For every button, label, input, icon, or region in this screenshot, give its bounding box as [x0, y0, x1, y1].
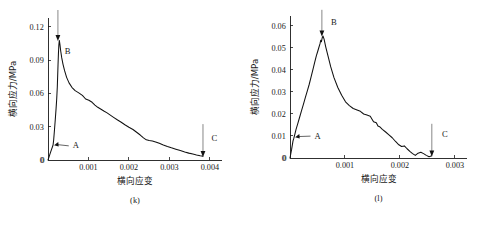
annotation-arrowhead — [429, 151, 434, 157]
plot-area-k: 00.0010.0020.0030.00400.030.060.090.12AB… — [7, 10, 222, 205]
x-axis-title: 横向应变 — [117, 175, 153, 186]
figure-root: 00.0010.0020.0030.00400.030.060.090.12AB… — [0, 0, 486, 226]
y-tick-label: 0.12 — [29, 23, 43, 32]
annotation-label-A: A — [73, 140, 80, 150]
y-axis-title: 横向应力/MPa — [7, 61, 18, 117]
stress-strain-curve — [290, 36, 432, 158]
y-tick-label: 0.06 — [29, 89, 43, 98]
panel-caption: (l) — [375, 194, 383, 203]
y-tick-label: 0.03 — [29, 123, 43, 132]
x-axis-title: 横向应变 — [361, 173, 397, 184]
annotation-arrowhead — [54, 142, 59, 146]
y-tick-label: 0.01 — [271, 132, 285, 141]
y-tick-label: 0.04 — [271, 66, 285, 75]
annotation-label-C: C — [442, 129, 448, 139]
plot-area-l: 00.0010.0020.00300.010.020.030.040.050.0… — [249, 10, 467, 203]
x-tick-label: 0.004 — [201, 163, 219, 172]
y-tick-label: 0.02 — [271, 110, 285, 119]
annotation-label-B: B — [65, 46, 71, 56]
chart-panel-l: 00.0010.0020.00300.010.020.030.040.050.0… — [243, 0, 486, 226]
chart-panel-k: 00.0010.0020.0030.00400.030.060.090.12AB… — [0, 0, 243, 226]
annotation-label-B: B — [331, 17, 337, 27]
y-tick-label: 0 — [282, 154, 286, 163]
y-tick-label: 0.05 — [271, 44, 285, 53]
x-tick-label: 0.002 — [120, 163, 138, 172]
x-tick-label: 0.003 — [160, 163, 178, 172]
y-tick-label: 0 — [40, 156, 44, 165]
x-tick-label: 0.002 — [391, 161, 409, 170]
annotation-A: A — [295, 131, 321, 141]
x-tick-label: 0.001 — [79, 163, 97, 172]
x-tick-label: 0.001 — [336, 161, 354, 170]
annotation-B: B — [56, 10, 71, 56]
annotation-B: B — [319, 10, 336, 37]
y-tick-label: 0.09 — [29, 56, 43, 65]
annotation-arrowhead — [319, 31, 324, 37]
annotation-C: C — [201, 124, 218, 157]
annotation-A: A — [54, 140, 80, 150]
annotation-arrowhead — [295, 134, 300, 138]
annotation-label-C: C — [212, 133, 218, 143]
y-tick-label: 0.03 — [271, 88, 285, 97]
panel-caption: (k) — [130, 196, 140, 205]
stress-strain-curve — [48, 40, 203, 160]
x-tick-label: 0.003 — [446, 161, 464, 170]
chart-svg-l: 00.0010.0020.00300.010.020.030.040.050.0… — [243, 0, 486, 226]
annotation-label-A: A — [314, 131, 321, 141]
y-tick-label: 0.06 — [271, 22, 285, 31]
annotation-C: C — [429, 124, 448, 157]
chart-svg-k: 00.0010.0020.0030.00400.030.060.090.12AB… — [0, 0, 243, 226]
y-axis-title: 横向应力/MPa — [249, 59, 260, 115]
